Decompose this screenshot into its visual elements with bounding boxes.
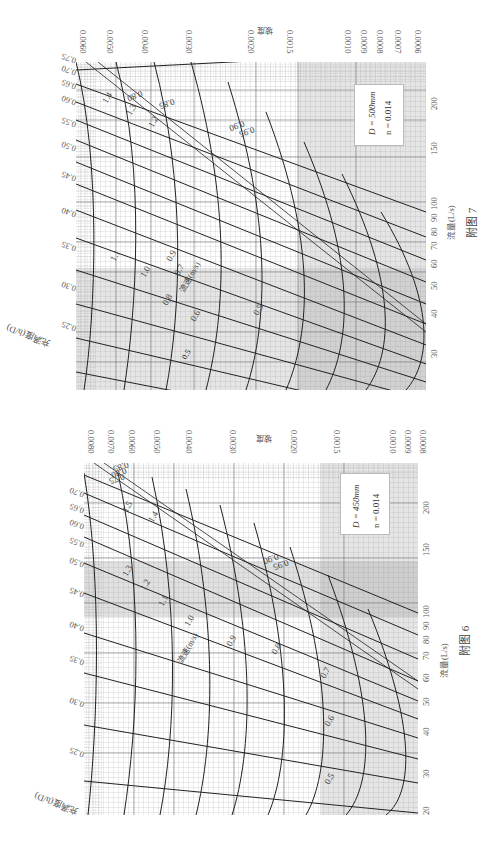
hd-tick: 0.40	[68, 620, 85, 634]
hd-tick: 0.70	[68, 486, 85, 500]
slope-tick: 0.0060	[127, 430, 137, 453]
slope-tick: 0.0020	[289, 430, 299, 453]
slope-tick: 0.0015	[285, 30, 295, 53]
legend-diameter: D = 500mm	[367, 91, 377, 135]
flow-tick: 70	[421, 652, 431, 661]
slope-tick: 0.0070	[106, 430, 116, 453]
hd-tick: 0.25	[60, 320, 77, 334]
slope-tick: 0.0008	[375, 30, 385, 53]
slope-tick: 0.0009	[359, 30, 369, 53]
hd-tick: 0.35	[68, 654, 85, 668]
flow-tick: 100	[421, 605, 431, 618]
hd-tick: 0.30	[68, 696, 85, 710]
plot-area: 0.5 0.5 0.6 0.7 0.8 0.9 1.0 1.1 1.2 1.3 …	[76, 62, 426, 390]
slope-tick: 0.0040	[140, 30, 150, 53]
legend-diameter: D = 450mm	[351, 484, 361, 528]
slope-axis-title: 坡度	[256, 434, 272, 445]
hd-tick: 0.40	[60, 206, 77, 220]
hd-tick: 0.55	[60, 116, 77, 130]
hd-tick: 0.45	[60, 170, 77, 184]
flow-tick: 80	[429, 228, 439, 237]
flow-tick: 90	[429, 214, 439, 223]
flow-tick: 40	[429, 310, 439, 319]
chart-figure-6: 0.0080 0.0070 0.0060 0.0050 0.0040 0.003…	[0, 420, 497, 846]
slope-tick: 0.0007	[393, 30, 403, 53]
flow-tick: 30	[429, 350, 439, 359]
hd-tick: 0.50	[68, 556, 85, 570]
hd-tick: 0.50	[60, 140, 77, 154]
legend-roughness: n = 0.014	[383, 101, 393, 135]
slope-tick: 0.0030	[228, 430, 238, 453]
fill-ratio-title: 充满度(h/D)	[4, 322, 52, 350]
slope-tick: 0.0010	[388, 430, 398, 453]
slope-tick: 0.0050	[105, 30, 115, 53]
slope-tick: 0.0060	[78, 30, 88, 53]
hd-tick: 0.25	[68, 746, 85, 760]
flow-tick: 200	[429, 97, 439, 110]
flow-tick: 50	[421, 698, 431, 707]
hd-tick: 0.65	[60, 78, 77, 92]
hd-tick: 0.35	[60, 240, 77, 254]
flow-tick: 40	[421, 728, 431, 737]
hd-tick: 0.60	[60, 94, 77, 108]
slope-tick: 0.0009	[403, 430, 413, 453]
hd-tick: 0.65	[68, 502, 85, 516]
slope-tick: 0.0080	[86, 430, 96, 453]
slope-tick: 0.0050	[152, 430, 162, 453]
slope-tick: 0.0008	[418, 430, 428, 453]
flow-tick: 90	[421, 622, 431, 631]
flow-tick: 80	[421, 636, 431, 645]
flow-axis-title: 流量(L/s)	[444, 205, 456, 240]
flow-tick: 60	[429, 260, 439, 269]
hd-tick: 0.55	[68, 536, 85, 550]
legend-box: D = 450mm n = 0.014	[340, 473, 390, 535]
slope-tick: 0.0030	[184, 30, 194, 53]
chart-figure-7: 0.0060 0.0050 0.0040 0.0030 0.0020 0.001…	[0, 0, 497, 420]
figure-caption: 附图 7	[463, 208, 479, 238]
flow-tick: 150	[421, 543, 431, 556]
slope-tick: 0.0015	[332, 430, 342, 453]
flow-tick: 20	[421, 807, 431, 816]
hd-tick: 0.70	[60, 64, 77, 78]
slope-tick: 0.0010	[343, 30, 353, 53]
legend-roughness: n = 0.014	[371, 494, 381, 528]
slope-axis-title: 坡度	[257, 26, 273, 37]
flow-tick: 30	[421, 770, 431, 779]
flow-tick: 60	[421, 674, 431, 683]
hd-tick: 0.60	[68, 518, 85, 532]
flow-tick: 50	[429, 282, 439, 291]
slope-tick: 0.0020	[246, 30, 256, 53]
figure-caption: 附图 6	[456, 626, 472, 656]
flow-tick: 200	[421, 501, 431, 514]
plot-area: 0.5 0.6 0.7 0.8 0.9 1.0 1.1 1.2 1.3 1.4 …	[84, 463, 418, 815]
slope-tick: 0.0040	[184, 430, 194, 453]
flow-tick: 70	[429, 242, 439, 251]
flow-tick: 150	[429, 142, 439, 155]
legend-box: D = 500mm n = 0.014	[354, 84, 404, 146]
flow-axis-title: 流量(L/s)	[437, 643, 449, 678]
hd-tick: 0.30	[60, 280, 77, 294]
slope-tick: 0.0006	[413, 30, 423, 53]
flow-tick: 100	[429, 197, 439, 210]
hd-tick: 0.45	[68, 586, 85, 600]
fill-ratio-title: 充满度(h/D)	[32, 790, 80, 818]
